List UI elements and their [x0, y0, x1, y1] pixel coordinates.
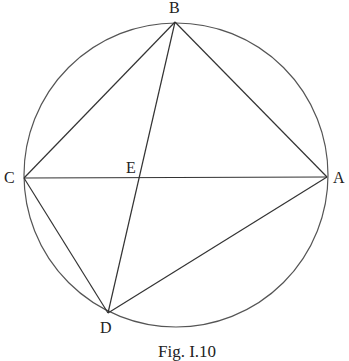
- segment-cd: [24, 178, 108, 313]
- segment-ca: [24, 177, 327, 178]
- segment-da: [108, 177, 327, 313]
- point-label-d: D: [100, 320, 112, 336]
- figure-caption: Fig. I.10: [158, 343, 216, 360]
- segment-bd: [108, 22, 175, 313]
- point-label-e: E: [126, 160, 136, 176]
- circumcircle: [24, 23, 328, 327]
- segment-bc: [24, 22, 175, 178]
- segment-ab: [175, 22, 327, 177]
- point-label-c: C: [4, 170, 15, 186]
- point-label-b: B: [169, 0, 180, 16]
- point-label-a: A: [333, 170, 345, 186]
